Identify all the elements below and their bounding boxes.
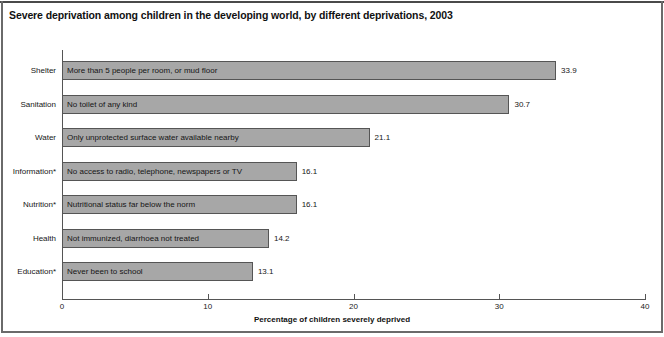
bar-row: Nutritional status far below the norm16.… — [62, 195, 645, 214]
bar-row: Not immunized, diarrhoea not treated14.2 — [62, 229, 645, 248]
bar-row: No toilet of any kind30.7 — [62, 95, 645, 114]
category-label: Nutrition* — [23, 195, 56, 214]
bar-description: Only unprotected surface water available… — [67, 128, 239, 147]
category-label: Sanitation — [20, 95, 56, 114]
x-tick-label-20: 20 — [349, 302, 358, 311]
category-label: Shelter — [31, 61, 56, 80]
bar-value-label: 14.2 — [274, 229, 290, 248]
x-tick-30 — [499, 294, 500, 300]
x-axis-title: Percentage of children severely deprived — [0, 315, 664, 324]
bar-description: No toilet of any kind — [67, 95, 137, 114]
bar-value-label: 16.1 — [302, 195, 318, 214]
bar-value-label: 33.9 — [561, 61, 577, 80]
category-label: Education* — [17, 262, 56, 281]
bar-value-label: 21.1 — [375, 128, 391, 147]
plot-area: 010203040 More than 5 people per room, o… — [0, 0, 664, 337]
bar-value-label: 13.1 — [258, 262, 274, 281]
bar-row: More than 5 people per room, or mud floo… — [62, 61, 645, 80]
x-tick-label-10: 10 — [203, 302, 212, 311]
chart-figure: Severe deprivation among children in the… — [0, 0, 664, 337]
bar-value-label: 16.1 — [302, 162, 318, 181]
category-label: Information* — [13, 162, 56, 181]
bar-description: More than 5 people per room, or mud floo… — [67, 61, 217, 80]
x-tick-40 — [645, 294, 646, 300]
bar-description: Nutritional status far below the norm — [67, 195, 195, 214]
bar-row: Never been to school13.1 — [62, 262, 645, 281]
x-tick-0 — [62, 294, 63, 300]
x-tick-10 — [208, 294, 209, 300]
category-label: Health — [33, 229, 56, 248]
bar-value-label: 30.7 — [514, 95, 530, 114]
category-label: Water — [35, 128, 56, 147]
x-tick-20 — [354, 294, 355, 300]
bar-description: No access to radio, telephone, newspaper… — [67, 162, 242, 181]
bar-row: Only unprotected surface water available… — [62, 128, 645, 147]
x-tick-label-30: 30 — [495, 302, 504, 311]
x-tick-label-40: 40 — [641, 302, 650, 311]
bar-row: No access to radio, telephone, newspaper… — [62, 162, 645, 181]
x-tick-label-0: 0 — [60, 302, 64, 311]
bar-description: Not immunized, diarrhoea not treated — [67, 229, 199, 248]
bar-description: Never been to school — [67, 262, 143, 281]
